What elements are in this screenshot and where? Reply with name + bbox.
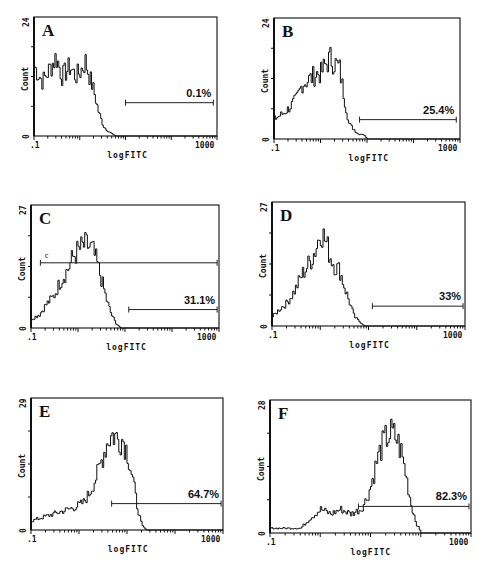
panel-letter-f: F: [278, 404, 288, 424]
y-axis-label: Count: [257, 456, 266, 480]
histogram-curve: [270, 419, 471, 533]
y-axis-max: 28: [258, 400, 267, 410]
x-tick-max: 1000: [449, 538, 468, 547]
histogram-plot-f: [0, 0, 487, 563]
plot-frame: [270, 400, 471, 533]
y-axis-min: 0: [258, 531, 267, 536]
gate-percentage: 82.3%: [421, 490, 467, 502]
x-axis-label: logFITC: [350, 548, 391, 557]
x-tick-min: .1: [266, 538, 276, 547]
